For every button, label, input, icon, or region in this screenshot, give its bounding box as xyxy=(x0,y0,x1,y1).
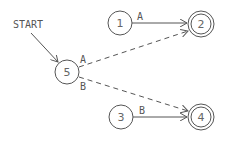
edge-5-to-4-label: B xyxy=(80,81,86,92)
start-arrow xyxy=(31,33,58,62)
edge-3-to-4-label: B xyxy=(139,105,145,116)
state-1: 1 xyxy=(108,11,132,35)
state-2-label: 2 xyxy=(198,18,205,31)
state-5: 5 xyxy=(55,60,79,84)
state-3-label: 3 xyxy=(118,111,125,124)
state-2: 2 xyxy=(188,11,214,37)
state-4-label: 4 xyxy=(198,111,205,124)
edge-5-to-2-label: A xyxy=(80,54,86,65)
automaton-diagram: START A A B B 1 2 3 4 5 xyxy=(0,0,232,142)
edge-1-to-2-label: A xyxy=(137,11,143,22)
edge-5-to-4 xyxy=(79,77,188,111)
edge-5-to-2 xyxy=(79,31,188,67)
state-4: 4 xyxy=(188,104,214,130)
state-3: 3 xyxy=(109,105,133,129)
state-1-label: 1 xyxy=(117,17,124,30)
start-label: START xyxy=(13,19,43,30)
state-5-label: 5 xyxy=(64,66,71,79)
